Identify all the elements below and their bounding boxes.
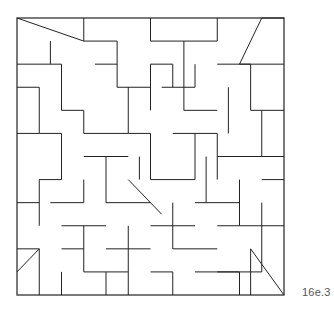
maze-diagram: [0, 0, 334, 316]
maze-wall: [17, 249, 39, 272]
maze-wall: [240, 18, 262, 64]
figure-label: 16e.3: [302, 286, 331, 298]
maze-wall: [17, 18, 84, 41]
maze-wall: [128, 180, 161, 215]
